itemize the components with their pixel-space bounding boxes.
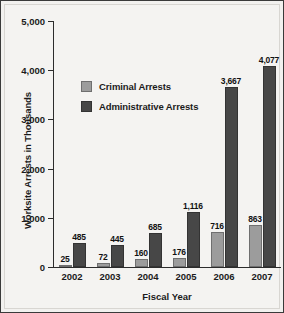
bar-value-label: 685 (148, 222, 162, 232)
bar-value-label: 160 (134, 248, 148, 258)
bar-group: 25485 (53, 21, 91, 267)
x-tick-label-2004: 2004 (137, 271, 158, 282)
plot-area: 01,0002,0003,0004,0005,000 2548572445160… (53, 21, 281, 267)
bar-administrative-2005: 1,116 (187, 212, 200, 267)
y-tick-label: 1,000 (21, 212, 45, 223)
y-tick-mark (48, 267, 53, 268)
bar-criminal-2003: 72 (97, 263, 110, 267)
bar-value-label: 485 (72, 232, 86, 242)
bar-administrative-2003: 445 (111, 245, 124, 267)
x-tick-label-2003: 2003 (99, 271, 120, 282)
bar-group: 1761,116 (167, 21, 205, 267)
x-tick-label-2002: 2002 (61, 271, 82, 282)
bar-group: 7163,667 (205, 21, 243, 267)
bar-administrative-2006: 3,667 (225, 87, 238, 267)
legend-label: Administrative Arrests (99, 101, 198, 112)
bar-administrative-2007: 4,077 (263, 66, 276, 267)
bar-value-label: 445 (110, 234, 124, 244)
chart-figure: Worksite Arrests in Thousands 01,0002,00… (0, 0, 284, 313)
bar-criminal-2002: 25 (59, 265, 72, 267)
bar-criminal-2006: 716 (211, 232, 224, 267)
bar-value-label: 716 (210, 221, 224, 231)
bar-criminal-2004: 160 (135, 259, 148, 267)
bar-value-label: 3,667 (221, 76, 241, 86)
y-axis-title: Worksite Arrests in Thousands (22, 56, 33, 266)
legend-item: Criminal Arrests (81, 81, 198, 92)
x-tick-label-2007: 2007 (251, 271, 272, 282)
bar-value-label: 863 (248, 214, 262, 224)
bar-value-label: 1,116 (183, 201, 203, 211)
bar-value-label: 4,077 (259, 55, 279, 65)
bar-value-label: 176 (172, 247, 186, 257)
x-tick-label-2006: 2006 (213, 271, 234, 282)
bar-administrative-2004: 685 (149, 233, 162, 267)
legend-item: Administrative Arrests (81, 101, 198, 112)
x-axis-line (53, 267, 281, 268)
chart-inner-frame: Worksite Arrests in Thousands 01,0002,00… (4, 4, 280, 309)
legend-swatch-icon (81, 101, 92, 112)
x-tick-label-2005: 2005 (175, 271, 196, 282)
y-tick-label: 3,000 (21, 114, 45, 125)
bar-administrative-2002: 485 (73, 243, 86, 267)
bar-value-label: 72 (98, 252, 107, 262)
bar-criminal-2007: 863 (249, 225, 262, 267)
legend-swatch-icon (81, 81, 92, 92)
legend-label: Criminal Arrests (99, 81, 171, 92)
chart-legend: Criminal ArrestsAdministrative Arrests (81, 81, 198, 121)
y-tick-label: 4,000 (21, 65, 45, 76)
y-tick-label: 2,000 (21, 163, 45, 174)
bar-value-label: 25 (60, 254, 69, 264)
x-axis-title: Fiscal Year (53, 291, 281, 302)
bar-group: 160685 (129, 21, 167, 267)
y-tick-label: 0 (40, 262, 45, 273)
bar-group: 8634,077 (243, 21, 281, 267)
bar-criminal-2005: 176 (173, 258, 186, 267)
y-tick-label: 5,000 (21, 16, 45, 27)
bar-group: 72445 (91, 21, 129, 267)
